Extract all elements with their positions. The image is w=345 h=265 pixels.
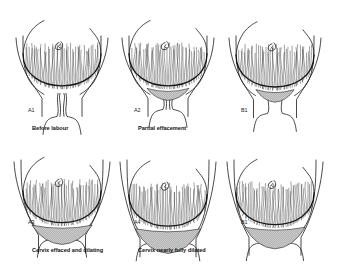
hair-strand bbox=[149, 188, 151, 226]
hair-strand bbox=[299, 183, 301, 221]
hair-strand bbox=[267, 188, 268, 227]
panel-a2: A2Partial effacement bbox=[122, 21, 214, 131]
hair-strand bbox=[38, 49, 40, 83]
panel-caption: Partial effacement bbox=[138, 125, 186, 131]
fetal-head-top bbox=[129, 21, 207, 54]
panel-b1-top: B1 bbox=[229, 22, 321, 132]
hair-strand bbox=[68, 180, 69, 225]
panel-caption: Cervix nearly fully dilated bbox=[138, 247, 206, 253]
fetal-hair bbox=[131, 183, 206, 229]
hair-strand bbox=[91, 46, 92, 79]
hair-strand bbox=[72, 49, 73, 87]
hair-strand bbox=[190, 188, 191, 223]
hair-strand bbox=[146, 191, 147, 225]
hair-strand bbox=[56, 44, 57, 88]
cervix-diagram: A1Before labourA2Partial effacementB1A3C… bbox=[0, 0, 345, 265]
panel-a3: A3Cervix effaced and dilating bbox=[14, 157, 110, 257]
hair-strand bbox=[46, 182, 47, 223]
hair-strand bbox=[66, 50, 67, 89]
hair-strand bbox=[300, 45, 301, 83]
hair-strand bbox=[152, 187, 153, 227]
hair-strand bbox=[288, 47, 289, 88]
hair-strand bbox=[258, 46, 259, 88]
hair-strand bbox=[140, 43, 142, 81]
hair-strand bbox=[35, 186, 36, 219]
hair-strand bbox=[176, 186, 177, 229]
panel-label: A2 bbox=[134, 107, 141, 113]
hair-strand bbox=[48, 180, 49, 224]
hair-strand bbox=[283, 187, 284, 227]
hair-strand bbox=[144, 49, 146, 83]
fetal-ear bbox=[268, 180, 275, 188]
fetal-ear bbox=[161, 42, 168, 50]
hair-strand bbox=[54, 184, 56, 225]
hair-strand bbox=[59, 185, 60, 226]
hair-strand bbox=[163, 190, 164, 229]
hair-strand bbox=[83, 186, 84, 221]
hair-strand bbox=[38, 183, 40, 220]
hair-strand bbox=[59, 43, 61, 88]
uterine-wall-right bbox=[196, 162, 216, 257]
hair-strand bbox=[40, 44, 42, 84]
fetal-hair bbox=[132, 43, 204, 89]
hair-strand bbox=[278, 53, 280, 90]
hair-strand bbox=[169, 183, 170, 229]
hair-strand bbox=[186, 186, 187, 225]
uterine-wall-right bbox=[82, 38, 108, 116]
forewater-membrane bbox=[256, 90, 294, 103]
panel-label: A3 bbox=[28, 219, 35, 225]
hair-strand bbox=[287, 190, 288, 227]
hair-strand bbox=[280, 185, 281, 228]
uterine-wall-right bbox=[297, 38, 322, 118]
hair-strand bbox=[249, 51, 250, 84]
hair-strand bbox=[77, 47, 79, 87]
hair-strand bbox=[293, 53, 295, 87]
hair-strand bbox=[88, 186, 89, 218]
hair-strand bbox=[297, 184, 299, 222]
hair-strand bbox=[183, 47, 184, 87]
panel-label: A4 bbox=[134, 219, 141, 225]
hair-strand bbox=[156, 185, 157, 228]
hair-strand bbox=[244, 53, 245, 79]
hair-strand bbox=[188, 44, 190, 85]
hair-strand bbox=[72, 181, 74, 224]
hair-strand bbox=[199, 191, 201, 216]
fetal-ear bbox=[268, 43, 275, 51]
hair-strand bbox=[92, 180, 93, 214]
hair-strand bbox=[191, 52, 192, 84]
fetal-head-top bbox=[129, 161, 207, 194]
fetal-hair bbox=[237, 182, 311, 228]
hair-strand bbox=[143, 50, 144, 83]
hair-strand bbox=[68, 47, 70, 88]
fetal-hair bbox=[239, 44, 312, 90]
hair-strand bbox=[261, 186, 262, 225]
panel-label: A1 bbox=[28, 107, 35, 113]
hair-strand bbox=[157, 43, 158, 88]
hair-strand bbox=[254, 191, 255, 224]
hair-strand bbox=[178, 192, 179, 228]
hair-strand bbox=[172, 46, 174, 89]
hair-strand bbox=[179, 44, 180, 87]
hair-strand bbox=[71, 184, 72, 225]
hair-strand bbox=[256, 44, 257, 86]
hair-strand bbox=[56, 184, 57, 225]
hair-strand bbox=[61, 184, 63, 225]
cervix-left bbox=[254, 95, 269, 132]
hair-strand bbox=[164, 47, 166, 89]
hair-strand bbox=[81, 50, 83, 85]
hair-strand bbox=[297, 45, 298, 85]
hair-strand bbox=[57, 46, 58, 89]
hair-strand bbox=[275, 185, 276, 228]
hair-strand bbox=[45, 188, 46, 223]
hair-strand bbox=[153, 48, 155, 88]
hair-strand bbox=[170, 191, 172, 229]
hair-strand bbox=[66, 186, 68, 226]
hair-strand bbox=[188, 187, 190, 225]
forewater-membrane bbox=[245, 227, 305, 249]
hair-strand bbox=[196, 185, 198, 220]
panel-caption: Cervix effaced and dilating bbox=[32, 247, 104, 253]
hair-strand bbox=[253, 188, 254, 222]
hair-strand bbox=[83, 45, 84, 84]
hair-strand bbox=[290, 191, 292, 225]
hair-strand bbox=[85, 51, 87, 83]
